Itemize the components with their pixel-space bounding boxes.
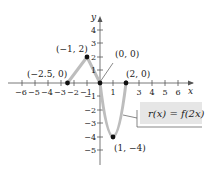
label-m1-2: (−1, 2): [56, 44, 88, 54]
x-tick-label: −3: [54, 88, 66, 97]
y-tick-label: 1: [91, 66, 96, 75]
y-tick-label: −2: [84, 106, 96, 115]
graph: r(x) = f(2x) (−2.5, 0) (−1, 2) (0, 0) (2…: [0, 0, 216, 171]
point-m2p5-0: [65, 81, 70, 86]
label-0-0: (0, 0): [115, 49, 139, 59]
y-tick-label: 3: [91, 39, 96, 48]
y-tick-label: −4: [84, 133, 96, 142]
x-tick-label: −4: [41, 88, 53, 97]
x-tick-label: 5: [162, 88, 167, 97]
y-axis-arrow-icon: [98, 16, 103, 22]
y-tick-label: 4: [91, 26, 96, 35]
x-tick-label: −5: [28, 88, 40, 97]
label-2-0: (2, 0): [126, 69, 150, 79]
label-m2p5-0: (−2.5, 0): [27, 69, 67, 79]
x-tick-label: −2: [67, 88, 79, 97]
point-0-0: [98, 81, 103, 86]
point-2-0: [124, 81, 129, 86]
y-tick-label: −3: [84, 119, 96, 128]
label-1-m4: (1, −4): [114, 143, 146, 153]
x-tick-label: 1: [110, 88, 115, 97]
y-tick-label: −1: [84, 92, 96, 101]
point-m1-2: [85, 55, 90, 60]
x-tick-label: 4: [149, 88, 154, 97]
y-tick-label: −5: [84, 146, 96, 155]
y-axis-label: y: [90, 12, 97, 22]
y-tick-label: 2: [91, 53, 96, 62]
point-1-m4: [111, 135, 116, 140]
x-tick-label: 3: [136, 88, 141, 97]
x-axis-label: x: [188, 86, 193, 96]
x-tick-label: −6: [15, 88, 27, 97]
x-tick-label: 6: [175, 88, 180, 97]
x-axis-arrow-icon: [188, 81, 194, 86]
legend-label: r(x) = f(2x): [148, 108, 205, 119]
